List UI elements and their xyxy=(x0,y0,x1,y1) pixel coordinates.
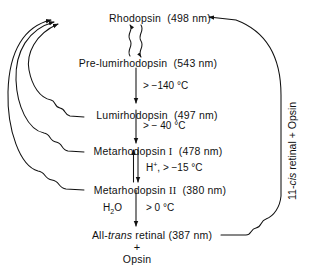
regeneration-label-suffix: retinal + Opsin xyxy=(286,102,298,173)
photon-return-curve-metarhodopsin-1 xyxy=(16,22,84,152)
node-wavelength-metarhodopsin-2: (380 nm) xyxy=(183,184,227,196)
node-label-opsin: Opsin xyxy=(123,254,151,265)
node-name-rhodopsin: Rhodopsin xyxy=(109,12,161,24)
regeneration-path-right xyxy=(209,17,281,235)
node-label-rhodopsin: Rhodopsin (498 nm) xyxy=(109,13,211,24)
node-label-metarhodopsin-1: Metarhodopsin I (478 nm) xyxy=(94,146,223,158)
node-numeral-metarhodopsin-1: I xyxy=(169,146,173,157)
condition-lumi-to-meta1: > − 40 °C xyxy=(143,121,185,131)
photon-return-curve-lumirhodopsin xyxy=(28,24,84,117)
regeneration-label-prefix: 11- xyxy=(286,186,298,200)
node-label-all-trans-retinal: All-trans retinal (387 nm) xyxy=(92,230,212,241)
all-trans-italic: trans xyxy=(108,229,132,241)
regeneration-label-cis: cis xyxy=(286,173,298,186)
photon-return-curve-metarhodopsin-2 xyxy=(8,20,84,190)
node-wavelength-rhodopsin: (498 nm) xyxy=(167,12,211,24)
all-trans-rest: retinal xyxy=(135,229,165,241)
node-label-metarhodopsin-2: Metarhodopsin II (380 nm) xyxy=(94,185,226,197)
node-wavelength-metarhodopsin-1: (478 nm) xyxy=(179,145,223,157)
photon-arrow-rhodopsin-up xyxy=(129,25,131,56)
node-name-pre-lumirhodopsin: Pre-lumirhodopsin xyxy=(79,57,168,69)
node-label-lumirhodopsin: Lumirhodopsin (497 nm) xyxy=(96,110,217,121)
node-numeral-metarhodopsin-2: II xyxy=(169,185,176,196)
node-label-pre-lumirhodopsin: Pre-lumirhodopsin (543 nm) xyxy=(79,58,217,69)
condition-prelumi-to-lumi: > −140 °C xyxy=(143,81,188,91)
node-wavelength-pre-lumirhodopsin: (543 nm) xyxy=(174,57,218,69)
reagent-water-o: O xyxy=(114,202,122,213)
node-name-metarhodopsin-1: Metarhodopsin xyxy=(94,145,166,157)
regeneration-path-label: 11-cis retinal + Opsin xyxy=(286,102,298,200)
node-name-metarhodopsin-2: Metarhodopsin xyxy=(94,184,166,196)
photon-arrow-prelumi-down xyxy=(140,25,142,57)
all-trans-prefix: All- xyxy=(92,229,108,241)
condition-meta2-to-alltrans: > 0 °C xyxy=(146,203,174,213)
condition-meta1-to-meta2: H+, > −15 °C xyxy=(146,161,202,173)
reagent-water: H2O xyxy=(103,203,122,215)
plus-sign-opsin: + xyxy=(134,242,141,253)
all-trans-wavelength: (387 nm) xyxy=(168,229,212,241)
condition-meta1-to-meta2-temp: , > −15 °C xyxy=(157,162,202,173)
